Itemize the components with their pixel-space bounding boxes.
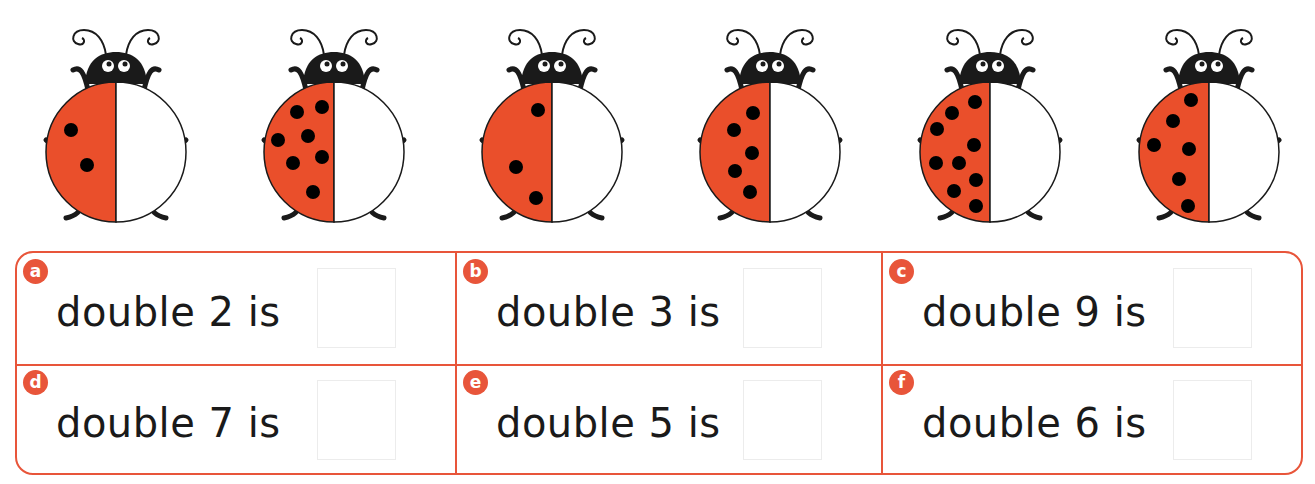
question-letter-badge: d bbox=[23, 370, 48, 395]
question-letter-badge: f bbox=[889, 370, 914, 395]
answer-box[interactable] bbox=[1173, 380, 1252, 460]
question-text: double 7 is bbox=[56, 400, 281, 446]
answer-box[interactable] bbox=[743, 268, 822, 348]
question-d: d double 7 is bbox=[17, 366, 457, 473]
doubles-question-grid: a double 2 is b double 3 is c double 9 i… bbox=[15, 251, 1303, 475]
ladybird-4 bbox=[670, 0, 870, 240]
answer-box[interactable] bbox=[317, 380, 396, 460]
ladybird-2-spots-icon bbox=[16, 0, 216, 240]
ladybird-7-spots-icon bbox=[234, 0, 434, 240]
question-f: f double 6 is bbox=[883, 366, 1301, 473]
ladybird-6 bbox=[1109, 0, 1309, 240]
ladybird-5-spots-icon bbox=[670, 0, 870, 240]
ladybird-6-spots-icon bbox=[1109, 0, 1309, 240]
question-e: e double 5 is bbox=[457, 366, 883, 473]
question-text: double 2 is bbox=[56, 289, 281, 335]
question-b: b double 3 is bbox=[457, 253, 883, 366]
ladybird-5 bbox=[890, 0, 1090, 240]
ladybird-9-spots-icon bbox=[890, 0, 1090, 240]
ladybird-3 bbox=[452, 0, 652, 240]
question-text: double 3 is bbox=[496, 289, 721, 335]
question-letter-badge: a bbox=[23, 259, 48, 284]
question-letter-badge: c bbox=[889, 259, 914, 284]
question-c: c double 9 is bbox=[883, 253, 1301, 366]
answer-box[interactable] bbox=[317, 268, 396, 348]
answer-box[interactable] bbox=[743, 380, 822, 460]
question-text: double 6 is bbox=[922, 400, 1147, 446]
answer-box[interactable] bbox=[1173, 268, 1252, 348]
question-a: a double 2 is bbox=[17, 253, 457, 366]
ladybird-1 bbox=[16, 0, 216, 240]
question-text: double 9 is bbox=[922, 289, 1147, 335]
ladybird-3-spots-icon bbox=[452, 0, 652, 240]
question-letter-badge: b bbox=[463, 259, 488, 284]
question-letter-badge: e bbox=[463, 370, 488, 395]
ladybird-row bbox=[0, 0, 1315, 240]
ladybird-2 bbox=[234, 0, 434, 240]
question-text: double 5 is bbox=[496, 400, 721, 446]
